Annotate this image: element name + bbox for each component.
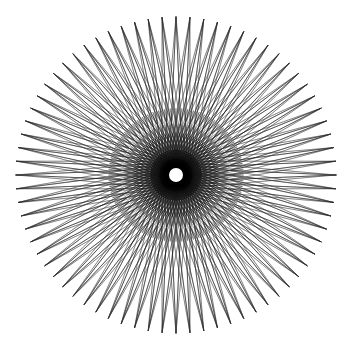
figure-root: Radial Chord Star Figure Monochrome radi… bbox=[0, 0, 352, 348]
radial-chord-star-diagram bbox=[0, 0, 352, 348]
center-hole-circle bbox=[169, 168, 183, 182]
